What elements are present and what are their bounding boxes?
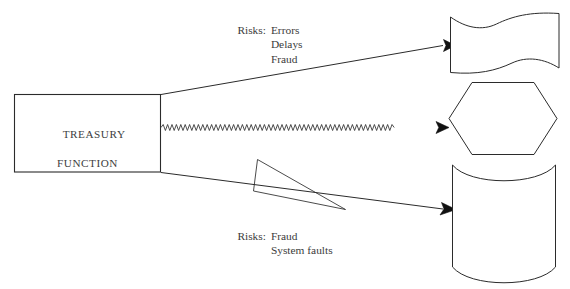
- target-shape-wavy-document[interactable]: [451, 13, 560, 73]
- connector-top[interactable]: [161, 40, 456, 95]
- risks-top-item: Fraud: [271, 52, 303, 67]
- treasury-function-label-line1: TREASURY: [63, 128, 126, 140]
- risks-annotation-bottom: Risks:FraudSystem faults: [226, 214, 333, 272]
- risks-bottom-items: FraudSystem faults: [266, 229, 333, 258]
- risks-top-label: Risks:: [237, 23, 266, 38]
- connector-middle[interactable]: [161, 122, 449, 134]
- diagram-canvas: g p TREASURY FUNCTION: [0, 0, 570, 289]
- risks-top-item: Errors: [271, 23, 303, 38]
- target-shape-hexagon[interactable]: [449, 83, 557, 155]
- risks-annotation-top: Risks:ErrorsDelaysFraud: [226, 8, 303, 81]
- risks-bottom-item: System faults: [271, 243, 333, 258]
- risks-bottom-label: Risks:: [237, 229, 266, 244]
- risks-top-items: ErrorsDelaysFraud: [266, 23, 303, 67]
- treasury-function-label: TREASURY FUNCTION: [14, 113, 161, 199]
- risks-top-item: Delays: [271, 37, 303, 52]
- risks-bottom-item: Fraud: [271, 229, 333, 244]
- treasury-function-label-line2: FUNCTION: [14, 156, 161, 170]
- leader-pointer-triangle: [254, 160, 346, 210]
- connector-bottom[interactable]: [161, 173, 456, 216]
- target-shape-cylinder[interactable]: [453, 165, 556, 283]
- arrowhead-middle: [436, 122, 449, 134]
